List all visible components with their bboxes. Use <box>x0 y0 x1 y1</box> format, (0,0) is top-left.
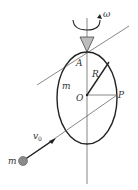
physics-diagram: ω A R m O P v0 m <box>0 0 138 190</box>
slanted-line <box>37 26 129 85</box>
label-O: O <box>76 93 84 103</box>
velocity-vector <box>24 141 52 160</box>
center-point <box>86 94 88 96</box>
label-P: P <box>117 90 125 100</box>
rotation-arrowhead-icon <box>97 14 102 19</box>
label-m-ring: m <box>62 81 71 91</box>
label-A: A <box>75 58 83 68</box>
label-R: R <box>91 69 99 79</box>
label-m-ball: m <box>8 156 17 166</box>
ball <box>19 157 28 166</box>
rotation-arrow-icon <box>73 20 100 30</box>
label-v0: v0 <box>33 131 42 142</box>
omega-label: ω <box>103 9 111 19</box>
